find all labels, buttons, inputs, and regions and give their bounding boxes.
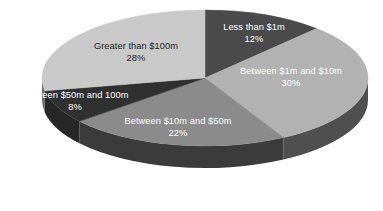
pie-chart: Less than $1m 12% Between $1m and $10m 3…: [0, 0, 383, 211]
pie-top-face: [42, 10, 368, 146]
pie-chart-graphic: [0, 0, 383, 211]
pie-slice-greater-100m[interactable]: [42, 10, 205, 91]
